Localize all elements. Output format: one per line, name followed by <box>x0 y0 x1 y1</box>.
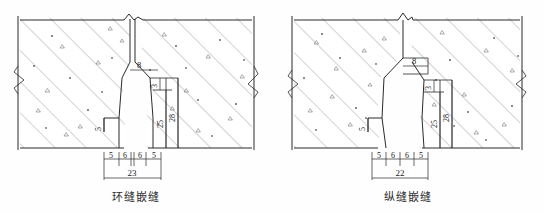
dim-total-left: 23 <box>104 166 161 180</box>
dim-chain-seg-4: 5 <box>152 151 156 160</box>
dim-inner-depth-label: 25 <box>156 120 165 128</box>
dim-upper-label: 3 <box>150 84 159 88</box>
dim-chain-seg-4: 5 <box>419 151 423 160</box>
dim-chain-seg-3: 6 <box>138 151 142 160</box>
concrete-hatch-left <box>18 16 254 150</box>
dim-chain-seg-2: 6 <box>123 151 127 160</box>
dim-chain-left: 5 6 6 5 <box>104 151 161 166</box>
figure-longitudinal-joint: 8 5 3 25 28 <box>272 0 544 213</box>
dim-chain-seg-1: 5 <box>109 151 113 160</box>
dim-notch-depth-label: 5 <box>358 127 367 131</box>
dim-notch-depth-label: 5 <box>94 127 103 131</box>
dim-inner-depth-label: 25 <box>430 120 439 128</box>
dim-total-label: 23 <box>128 168 138 178</box>
dim-chain-right: 5 6 6 5 <box>372 151 428 166</box>
dim-outer-depth-label: 28 <box>442 114 451 122</box>
dim-chain-seg-1: 5 <box>377 151 381 160</box>
dim-chain-seg-3: 6 <box>405 151 409 160</box>
concrete-hatch-right <box>292 16 522 150</box>
dim-chain-seg-2: 6 <box>391 151 395 160</box>
dim-total-right: 22 <box>372 166 428 180</box>
figure-circumferential-joint: 8 5 3 25 28 <box>0 0 272 213</box>
dim-slot-width-label: 8 <box>412 56 416 66</box>
drawing-canvas: 8 5 3 25 28 <box>0 0 544 213</box>
dim-total-label: 22 <box>396 168 405 178</box>
dim-outer-depth-label: 28 <box>168 114 177 122</box>
caption-left: 环缝嵌缝 <box>0 188 272 204</box>
top-key-right <box>398 13 413 58</box>
dim-slot-width-label: 8 <box>137 60 141 70</box>
caption-right: 纵缝嵌缝 <box>272 188 544 204</box>
dim-upper-label: 3 <box>424 86 433 90</box>
